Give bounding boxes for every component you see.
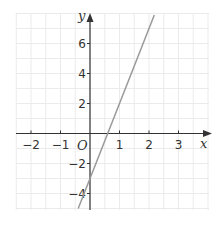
chart: −2−1123−4−2246 x y O [0, 0, 218, 228]
y-tick-label: 4 [78, 67, 86, 81]
y-tick-label: −2 [68, 157, 86, 171]
y-axis-arrow-icon [87, 13, 94, 22]
x-tick-label: −2 [22, 138, 40, 152]
x-tick-label: 3 [175, 138, 183, 152]
x-axis-label: x [200, 136, 208, 151]
origin-label: O [77, 138, 88, 153]
x-tick-label: −1 [52, 138, 70, 152]
y-axis-label: y [77, 8, 86, 23]
y-tick-label: 2 [78, 97, 86, 111]
x-tick-label: 2 [145, 138, 153, 152]
x-tick-label: 1 [116, 138, 124, 152]
grid [16, 13, 209, 210]
y-tick-label: 6 [78, 37, 86, 51]
